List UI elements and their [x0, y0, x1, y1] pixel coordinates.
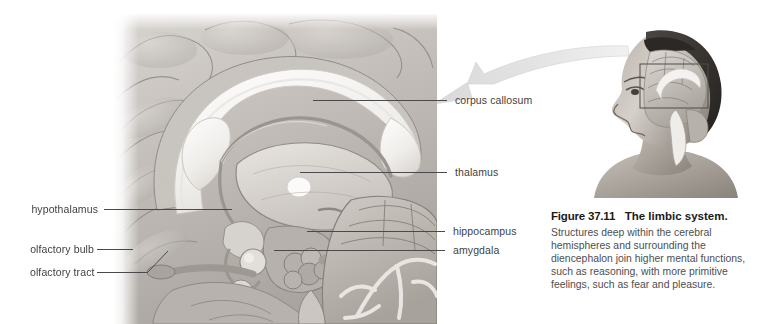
figure-title: The limbic system. — [625, 210, 728, 222]
figure-number: Figure 37.11 — [551, 210, 615, 222]
label-hypothalamus: hypothalamus — [30, 203, 98, 215]
label-amygdala: amygdala — [453, 244, 499, 256]
label-olfactory-tract: olfactory tract — [30, 266, 94, 278]
leader-thalamus — [300, 172, 447, 173]
leader-hypothalamus — [104, 209, 232, 210]
label-corpus-callosum: corpus callosum — [455, 94, 532, 106]
figure-limbic-system: corpus callosum thalamus hippocampus amy… — [0, 0, 770, 324]
leader-olfactory-bulb — [97, 249, 133, 250]
leader-corpus-callosum — [313, 100, 447, 101]
leader-amygdala — [274, 250, 445, 251]
label-thalamus: thalamus — [455, 166, 498, 178]
leader-hippocampus — [307, 231, 445, 232]
head-profile-image — [588, 18, 740, 198]
figure-caption: Figure 37.11 The limbic system. Structur… — [551, 209, 763, 291]
figure-caption-title: Figure 37.11 The limbic system. — [551, 209, 763, 223]
label-olfactory-bulb: olfactory bulb — [30, 243, 94, 255]
leader-olfactory-tract-elbow — [140, 246, 200, 278]
figure-caption-body: Structures deep within the cerebral hemi… — [551, 226, 763, 291]
label-hippocampus: hippocampus — [453, 225, 517, 237]
